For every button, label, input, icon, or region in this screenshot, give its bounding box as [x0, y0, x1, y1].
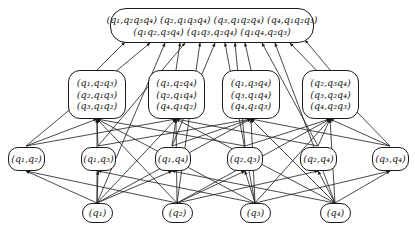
pair-node-label: (q₃,q₄) — [375, 153, 406, 165]
middle-node-line: (q₁,q₂q₄) — [156, 77, 197, 89]
pair-node-label: (q₂,q₃) — [230, 153, 261, 165]
middle-node-line: (q₄,q₁q₃) — [231, 100, 272, 112]
pair-node-label: (q₁,q₂) — [11, 153, 42, 165]
middle-node-line: (q₁,q₃q₄) — [231, 77, 272, 89]
middle-node-line: (q₂,q₁q₄) — [156, 89, 197, 101]
middle-node-q1q2q4: (q₁,q₂q₄) (q₂,q₁q₄) (q₄,q₁q₂) — [148, 70, 205, 119]
top-node-line-1: (q₁,q₂q₃q₄) (q₂,q₁q₃q₄) (q₃,q₁q₂q₄) (q₄,… — [106, 14, 317, 26]
top-node-all-partitions: (q₁,q₂q₃q₄) (q₂,q₁q₃q₄) (q₃,q₁q₂q₄) (q₄,… — [110, 8, 314, 43]
pair-node-q2-q4: (q₂,q₄) — [300, 147, 337, 171]
singleton-node-q3: (q₃) — [240, 203, 271, 223]
middle-node-line: (q₄,q₁q₂) — [156, 100, 197, 112]
middle-node-line: (q₄,q₂q₃) — [310, 100, 351, 112]
middle-node-line: (q₁,q₂q₃) — [77, 77, 118, 89]
middle-node-line: (q₂,q₁q₃) — [77, 89, 118, 101]
pair-node-q1-q3: (q₁,q₃) — [81, 147, 116, 171]
pair-node-q2-q3: (q₂,q₃) — [227, 147, 263, 171]
pair-node-label: (q₁,q₃) — [83, 153, 114, 165]
singleton-node-label: (q₂) — [169, 207, 186, 219]
singleton-node-label: (q₁) — [89, 207, 106, 219]
pair-node-label: (q₁,q₄) — [158, 153, 189, 165]
pair-node-q1-q2: (q₁,q₂) — [8, 147, 45, 171]
pair-node-q1-q4: (q₁,q₄) — [155, 147, 191, 171]
middle-node-line: (q₃,q₁q₂) — [77, 100, 118, 112]
singleton-node-q2: (q₂) — [162, 203, 193, 223]
middle-node-line: (q₃,q₂q₄) — [310, 89, 351, 101]
singleton-node-label: (q₃) — [247, 207, 264, 219]
singleton-node-q1: (q₁) — [82, 203, 113, 223]
singleton-node-q4: (q₄) — [320, 203, 351, 223]
pair-node-q3-q4: (q₃,q₄) — [372, 147, 409, 171]
middle-node-line: (q₃,q₁q₄) — [231, 89, 272, 101]
middle-node-q2q3q4: (q₂,q₃q₄) (q₃,q₂q₄) (q₄,q₂q₃) — [302, 70, 359, 119]
pair-node-label: (q₂,q₄) — [303, 153, 334, 165]
middle-node-q1q3q4: (q₁,q₃q₄) (q₃,q₁q₄) (q₄,q₁q₃) — [222, 70, 280, 119]
middle-node-q1q2q3: (q₁,q₂q₃) (q₂,q₁q₃) (q₃,q₁q₂) — [68, 70, 126, 119]
singleton-node-label: (q₄) — [327, 207, 344, 219]
middle-node-line: (q₂,q₃q₄) — [310, 77, 351, 89]
top-node-line-2: (q₁q₂,q₃q₄) (q₁q₃,q₂q₄) (q₁q₄,q₂q₃) — [133, 26, 291, 38]
